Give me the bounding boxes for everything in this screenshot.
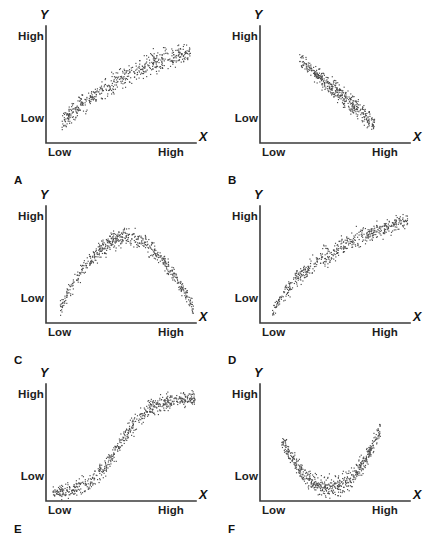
y-axis-tick-low: Low xyxy=(21,292,44,304)
y-axis-tick-high: High xyxy=(18,210,44,222)
y-axis-tick-high: High xyxy=(18,30,44,42)
axes xyxy=(46,206,196,323)
y-axis-tick-low: Low xyxy=(21,470,44,482)
x-axis-tick-low: Low xyxy=(48,326,71,338)
scatter-dots xyxy=(53,390,196,500)
y-axis-title: Y xyxy=(40,8,48,22)
y-axis-title: Y xyxy=(254,8,262,22)
y-axis-tick-low: Low xyxy=(235,112,258,124)
x-axis-tick-high: High xyxy=(158,504,184,516)
scatterplot-panel-a: YXHighLowLowHigh xyxy=(0,0,220,181)
x-axis-title: X xyxy=(199,130,207,144)
panel-label-e: E xyxy=(14,523,22,535)
axes xyxy=(260,26,410,143)
y-axis-tick-low: Low xyxy=(235,470,258,482)
x-axis-tick-high: High xyxy=(158,146,184,158)
y-axis-tick-low: Low xyxy=(21,112,44,124)
x-axis-tick-low: Low xyxy=(48,504,71,516)
x-axis-title: X xyxy=(413,130,421,144)
scatterplot-panel-e: YXHighLowLowHigh xyxy=(0,358,220,539)
plot-area-d xyxy=(214,180,434,361)
y-axis-tick-high: High xyxy=(232,30,258,42)
x-axis-tick-low: Low xyxy=(262,504,285,516)
plot-area-b xyxy=(214,0,434,181)
y-axis-tick-high: High xyxy=(18,388,44,400)
x-axis-tick-high: High xyxy=(158,326,184,338)
y-axis-tick-low: Low xyxy=(235,292,258,304)
x-axis-title: X xyxy=(199,310,207,324)
x-axis-tick-low: Low xyxy=(48,146,71,158)
panel-label-f: F xyxy=(228,523,235,535)
x-axis-title: X xyxy=(413,310,421,324)
scatterplot-panel-f: YXHighLowLowHigh xyxy=(214,358,434,539)
x-axis-tick-high: High xyxy=(372,146,398,158)
x-axis-tick-high: High xyxy=(372,504,398,516)
scatterplot-panel-d: YXHighLowLowHigh xyxy=(214,180,434,361)
scatter-dots xyxy=(62,44,191,130)
scatter-dots xyxy=(281,424,381,499)
x-axis-tick-high: High xyxy=(372,326,398,338)
scatter-dots xyxy=(60,228,194,316)
plot-area-e xyxy=(0,358,220,539)
x-axis-tick-low: Low xyxy=(262,146,285,158)
scatterplot-figure: YXHighLowLowHighAYXHighLowLowHighBYXHigh… xyxy=(0,0,440,544)
y-axis-tick-high: High xyxy=(232,388,258,400)
scatter-dots xyxy=(272,214,408,316)
plot-area-a xyxy=(0,0,220,181)
y-axis-title: Y xyxy=(254,366,262,380)
plot-area-c xyxy=(0,180,220,361)
y-axis-title: Y xyxy=(40,188,48,202)
x-axis-title: X xyxy=(199,488,207,502)
y-axis-title: Y xyxy=(40,366,48,380)
axes xyxy=(46,26,196,143)
scatterplot-panel-c: YXHighLowLowHigh xyxy=(0,180,220,361)
x-axis-tick-low: Low xyxy=(262,326,285,338)
y-axis-tick-high: High xyxy=(232,210,258,222)
plot-area-f xyxy=(214,358,434,539)
x-axis-title: X xyxy=(413,488,421,502)
axes xyxy=(260,206,410,323)
y-axis-title: Y xyxy=(254,188,262,202)
scatter-dots xyxy=(299,54,375,130)
scatterplot-panel-b: YXHighLowLowHigh xyxy=(214,0,434,181)
